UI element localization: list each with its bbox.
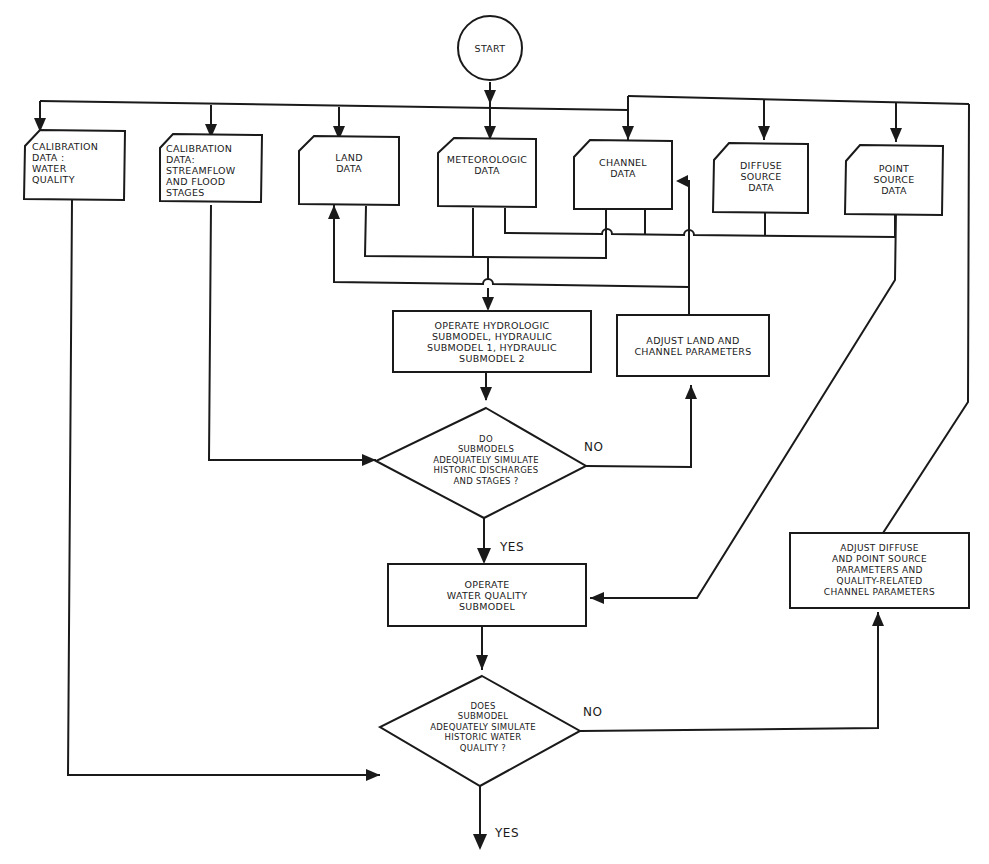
label-line: DATA xyxy=(881,185,907,196)
adjust-land-channel-node: ADJUST LAND AND CHANNEL PARAMETERS xyxy=(617,318,769,374)
label-line: HISTORIC WATER xyxy=(445,732,522,743)
label-line: HISTORIC DISCHARGES xyxy=(434,465,539,476)
label-line: OPERATE xyxy=(464,579,509,590)
label-line: SUBMODELS xyxy=(458,444,514,455)
label-line: SUBMODEL, HYDRAULIC xyxy=(432,331,552,342)
label-line: SUBMODEL 1, HYDRAULIC xyxy=(427,342,557,353)
label-line: DATA xyxy=(610,168,636,179)
adjust-diffuse-point-node: ADJUST DIFFUSE AND POINT SOURCE PARAMETE… xyxy=(790,536,969,605)
label-line: CHANNEL PARAMETERS xyxy=(824,587,935,598)
label-line: METEOROLOGIC xyxy=(447,154,527,165)
decision-water-quality-node: DOES SUBMODEL ADEQUATELY SIMULATE HISTOR… xyxy=(405,692,561,762)
operate-hydrologic-node: OPERATE HYDROLOGIC SUBMODEL, HYDRAULIC S… xyxy=(393,314,591,370)
label-line: AND POINT SOURCE xyxy=(832,554,927,565)
channel-data-node: CHANNEL DATA xyxy=(574,153,672,183)
label-line: QUALITY xyxy=(32,174,75,185)
decision1-no-label: NO xyxy=(584,440,603,454)
label-line: CHANNEL xyxy=(599,157,647,168)
label-line: ADJUST DIFFUSE xyxy=(840,543,919,554)
shapes xyxy=(24,16,969,786)
start-node: START xyxy=(458,36,522,60)
label-line: AND FLOOD xyxy=(166,176,225,187)
label-line: DATA : xyxy=(32,152,65,163)
label-line: STREAMFLOW xyxy=(166,165,235,176)
decision2-no-label: NO xyxy=(583,705,602,719)
label-line: QUALITY ? xyxy=(460,743,506,754)
label-line: DATA xyxy=(336,163,362,174)
decision2-yes-label: YES xyxy=(495,826,519,840)
label-line: POINT xyxy=(879,163,909,174)
label-line: SUBMODEL xyxy=(458,711,509,722)
decision1-yes-label: YES xyxy=(500,540,524,554)
label-line: ADEQUATELY SIMULATE xyxy=(430,722,536,733)
label-line: SOURCE xyxy=(873,174,914,185)
label-line: OPERATE HYDROLOGIC xyxy=(435,320,550,331)
label-line: CALIBRATION xyxy=(32,141,98,152)
label-line: PARAMETERS AND xyxy=(836,565,923,576)
label-line: ADEQUATELY SIMULATE xyxy=(433,455,539,466)
diffuse-source-data-node: DIFFUSE SOURCE DATA xyxy=(714,155,808,197)
meteorologic-data-node: METEOROLOGIC DATA xyxy=(438,150,536,180)
label-line: DOES xyxy=(470,701,495,712)
label-line: CALIBRATION xyxy=(166,143,232,154)
label-line: CHANNEL PARAMETERS xyxy=(634,346,751,357)
label-line: QUALITY-RELATED xyxy=(837,576,923,587)
calibration-water-quality-node: CALIBRATION DATA : WATER QUALITY xyxy=(32,141,122,197)
label-line: LAND xyxy=(335,152,363,163)
start-label: START xyxy=(475,43,506,54)
label-line: DATA xyxy=(748,182,774,193)
label-line: SOURCE xyxy=(740,171,781,182)
label-line: AND STAGES ? xyxy=(453,476,518,487)
label-line: DATA: xyxy=(166,154,195,165)
label-line: ADJUST LAND AND xyxy=(646,335,739,346)
decision-discharges-node: DO SUBMODELS ADEQUATELY SIMULATE HISTORI… xyxy=(406,424,566,496)
calibration-streamflow-node: CALIBRATION DATA: STREAMFLOW AND FLOOD S… xyxy=(166,143,260,201)
label-line: WATER xyxy=(32,163,67,174)
label-line: SUBMODEL xyxy=(459,601,515,612)
label-line: DO xyxy=(479,434,493,445)
land-data-node: LAND DATA xyxy=(300,148,398,178)
label-line: SUBMODEL 2 xyxy=(459,353,525,364)
label-line: STAGES xyxy=(166,187,205,198)
point-source-data-node: POINT SOURCE DATA xyxy=(846,158,942,200)
operate-water-quality-node: OPERATE WATER QUALITY SUBMODEL xyxy=(388,567,586,623)
label-line: DATA xyxy=(474,165,500,176)
label-line: DIFFUSE xyxy=(740,160,782,171)
label-line: WATER QUALITY xyxy=(447,590,528,601)
